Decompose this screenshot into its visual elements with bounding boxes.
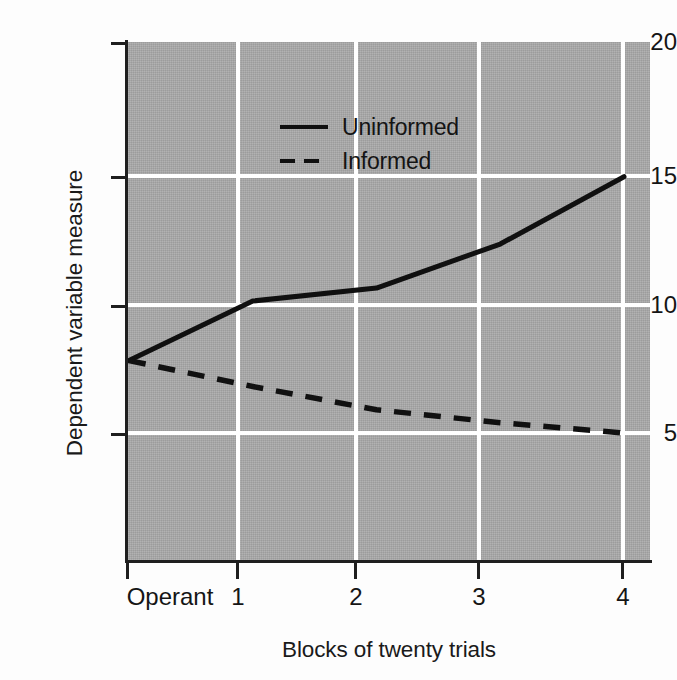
x-tick-label-2: 2 [349, 585, 362, 609]
line-chart-figure: Dependent variable measure 20 15 10 5 [0, 0, 677, 680]
y-tick-mark-20 [111, 42, 125, 45]
x-tick-mark-1 [236, 563, 239, 579]
x-axis-spine [125, 560, 652, 563]
plot-area: Uninformed Informed [128, 42, 650, 560]
x-tick-label-4: 4 [616, 585, 629, 609]
solid-line-icon [280, 120, 328, 134]
series-line-uninformed [129, 177, 624, 361]
legend-item-informed: Informed [280, 144, 515, 178]
legend-label-informed: Informed [342, 148, 431, 175]
x-tick-label-1: 1 [231, 585, 244, 609]
legend-label-uninformed: Uninformed [342, 114, 459, 141]
dashed-line-icon [280, 154, 328, 168]
y-tick-mark-10 [111, 305, 125, 308]
x-tick-mark-3 [477, 563, 480, 579]
x-axis-title: Blocks of twenty trials [128, 637, 650, 663]
x-tick-mark-operant [126, 563, 129, 579]
y-tick-mark-5 [111, 433, 125, 436]
x-tick-mark-4 [621, 563, 624, 579]
legend: Uninformed Informed [280, 110, 515, 178]
x-tick-label-3: 3 [472, 585, 485, 609]
y-axis-spine [125, 40, 128, 562]
series-line-informed [129, 361, 624, 434]
x-tick-label-operant: Operant [127, 585, 214, 609]
y-axis-title: Dependent variable measure [62, 83, 88, 543]
y-tick-mark-15 [111, 176, 125, 179]
legend-item-uninformed: Uninformed [280, 110, 515, 144]
x-tick-mark-2 [354, 563, 357, 579]
